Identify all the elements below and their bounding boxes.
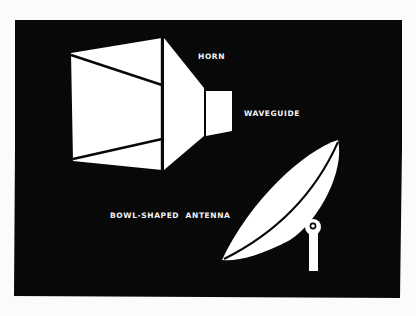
black-background-panel-lower: [14, 148, 402, 298]
horn-label: HORN: [198, 52, 225, 61]
waveguide-label: WAVEGUIDE: [244, 109, 300, 118]
antenna-label: BOWL-SHAPED ANTENNA: [110, 211, 231, 220]
diagram-canvas: [0, 0, 416, 316]
waveguide: [206, 91, 232, 136]
